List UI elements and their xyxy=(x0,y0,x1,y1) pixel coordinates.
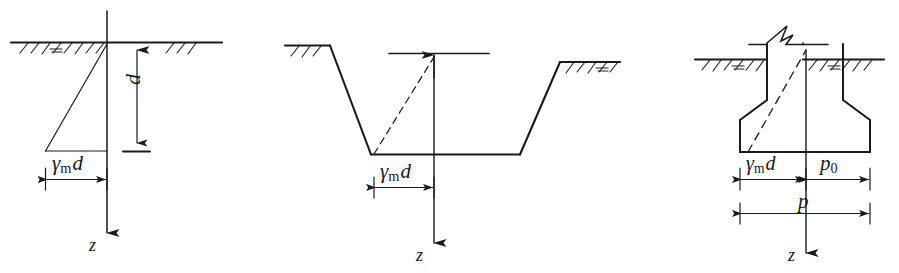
diagram-canvas xyxy=(0,0,899,273)
panel-excavation xyxy=(285,46,620,244)
ground-hatching-left xyxy=(291,46,321,57)
excavation-outline xyxy=(285,46,620,155)
column-break-symbol xyxy=(749,26,828,45)
total-pressure-label-p: p xyxy=(798,189,809,214)
z-axis-label-3: z xyxy=(788,245,795,266)
dashed-stress-line xyxy=(748,50,806,152)
panel-footing xyxy=(695,26,884,253)
pressure-label-gamma-m-d-3: γmd xyxy=(746,152,775,177)
pressure-label-gamma-m-d-2: γmd xyxy=(380,159,411,185)
z-axis-label-1: z xyxy=(89,235,96,256)
ground-hatching-right xyxy=(566,62,618,73)
depth-label-d: d xyxy=(120,74,146,85)
net-pressure-label-p0: p0 xyxy=(820,151,838,177)
ground-hatching-left xyxy=(702,60,764,71)
depth-dimension xyxy=(123,50,150,152)
ground-hatching xyxy=(20,43,196,54)
pressure-label-gamma-m-d-1: γmd xyxy=(52,151,83,177)
figure-root: d γmd z γmd z γmd p0 p z xyxy=(0,0,899,273)
stress-triangle xyxy=(46,44,108,151)
ground-hatching-right xyxy=(809,60,872,71)
dashed-stress-line xyxy=(374,57,434,154)
z-axis-label-2: z xyxy=(416,245,423,266)
panel-natural-ground xyxy=(11,11,222,233)
